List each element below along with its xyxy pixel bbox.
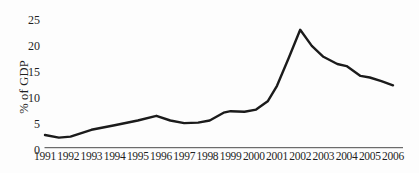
plot-area [0, 0, 419, 173]
data-line [45, 30, 393, 138]
y-tick-label: 10 [6, 91, 40, 105]
line-chart: % of GDP 0510152025 19911992199319941995… [0, 0, 419, 173]
x-tick-label: 2006 [377, 150, 409, 163]
y-tick-label: 25 [6, 13, 40, 27]
y-tick-label: 5 [6, 117, 40, 131]
y-tick-label: 20 [6, 39, 40, 53]
y-tick-label: 15 [6, 65, 40, 79]
